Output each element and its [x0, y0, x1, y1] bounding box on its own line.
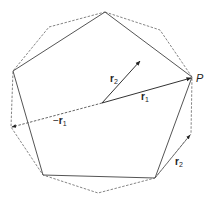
label-r2-center: r2: [110, 73, 118, 85]
polygon-vector-diagram: P r1 −r1 r2 r2: [0, 0, 211, 203]
label-neg-r1: −r1: [53, 115, 67, 127]
vector-r2-center: [102, 61, 140, 103]
label-P: P: [196, 72, 204, 84]
label-r1: r1: [141, 91, 149, 103]
dashed-decagon: [11, 12, 192, 193]
label-r2-edge: r2: [175, 156, 183, 168]
